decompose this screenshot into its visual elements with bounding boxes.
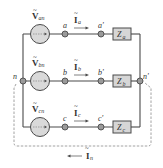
svg-text:c: c bbox=[78, 112, 81, 118]
label-node-n: n bbox=[13, 72, 17, 81]
svg-text:b: b bbox=[78, 66, 81, 72]
voltage-source-cn bbox=[31, 118, 50, 137]
svg-text:b: b bbox=[123, 81, 126, 87]
label-node-a-prime: a' bbox=[98, 21, 104, 30]
label-i-c: ~ I c bbox=[74, 102, 81, 118]
svg-text:cn: cn bbox=[39, 108, 45, 114]
svg-text:Z: Z bbox=[117, 30, 122, 39]
label-node-a: a bbox=[63, 21, 67, 30]
current-arrow-b-icon bbox=[74, 74, 89, 77]
label-i-b: ~ I b bbox=[74, 56, 81, 72]
voltage-source-bn bbox=[31, 72, 50, 91]
current-arrow-c-icon bbox=[74, 120, 89, 123]
voltage-source-an bbox=[31, 25, 50, 44]
label-v-bn: ~ V bn bbox=[32, 53, 45, 68]
label-node-c-prime: c' bbox=[98, 114, 104, 123]
svg-text:Z: Z bbox=[117, 123, 122, 132]
label-i-a: ~ I a bbox=[74, 9, 81, 25]
label-i-n: ~ I n bbox=[85, 144, 93, 161]
label-node-b-prime: b' bbox=[98, 68, 104, 77]
svg-text:n: n bbox=[90, 155, 93, 161]
node-b-prime bbox=[98, 78, 104, 84]
label-node-n-prime: n' bbox=[143, 72, 149, 81]
svg-text:an: an bbox=[39, 15, 45, 21]
svg-text:bn: bn bbox=[39, 62, 45, 68]
current-arrow-n-icon bbox=[67, 155, 82, 158]
node-a bbox=[62, 31, 68, 37]
node-b bbox=[62, 78, 68, 84]
label-v-cn: ~ V cn bbox=[32, 99, 44, 114]
label-node-c: c bbox=[63, 114, 67, 123]
node-c bbox=[62, 124, 68, 130]
three-phase-circuit-diagram: ~ V an ~ V bn ~ V cn ~ I a ~ I b ~ I c ~… bbox=[0, 0, 163, 168]
neutral-return-path bbox=[14, 83, 151, 146]
label-v-an: ~ V an bbox=[32, 6, 45, 21]
node-a-prime bbox=[98, 31, 104, 37]
svg-text:c: c bbox=[123, 127, 126, 133]
node-n bbox=[20, 78, 26, 84]
svg-text:Z: Z bbox=[117, 77, 122, 86]
svg-text:a: a bbox=[78, 19, 81, 25]
label-node-b: b bbox=[63, 68, 67, 77]
node-c-prime bbox=[98, 124, 104, 130]
current-arrow-a-icon bbox=[74, 27, 89, 30]
svg-text:a: a bbox=[123, 34, 126, 40]
